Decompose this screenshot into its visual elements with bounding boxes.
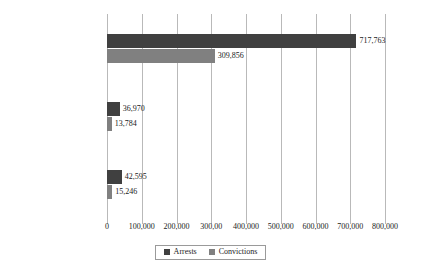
bar-row: 42,595 bbox=[107, 170, 147, 184]
bar-row: 36,970 bbox=[107, 102, 145, 116]
x-axis-tick-label: 300,00 bbox=[200, 222, 222, 231]
bar-convictions[interactable] bbox=[107, 117, 112, 131]
plot-area: 717,763309,85636,97013,78442,59515,246 bbox=[107, 14, 385, 219]
x-axis-tick-label: 700,000 bbox=[337, 222, 363, 231]
bar-row: 13,784 bbox=[107, 117, 137, 131]
legend-item-arrests[interactable]: Arrests bbox=[164, 248, 197, 256]
bar-arrests[interactable] bbox=[107, 170, 122, 184]
x-axis-tick-label: 500,000 bbox=[268, 222, 294, 231]
bar-value-label: 36,970 bbox=[123, 105, 145, 113]
bar-value-label: 42,595 bbox=[125, 173, 147, 181]
legend-box: ArrestsConvictions bbox=[155, 245, 267, 260]
legend-label: Arrests bbox=[174, 248, 197, 256]
x-axis-tick-label: 100,000 bbox=[129, 222, 155, 231]
bar-arrests[interactable] bbox=[107, 34, 356, 48]
bar-convictions[interactable] bbox=[107, 49, 215, 63]
bar-chart: 717,763309,85636,97013,78442,59515,246 N… bbox=[0, 0, 421, 275]
value-axis: 0100,000200,000300,00400,000500,000600,0… bbox=[0, 219, 421, 235]
x-axis-tick-label: 400,000 bbox=[233, 222, 259, 231]
legend-swatch-icon bbox=[164, 249, 170, 255]
bar-row: 15,246 bbox=[107, 185, 137, 199]
legend-item-convictions[interactable]: Convictions bbox=[209, 248, 258, 256]
legend: ArrestsConvictions bbox=[0, 245, 421, 260]
bar-value-label: 13,784 bbox=[115, 120, 137, 128]
bar-row: 717,763 bbox=[107, 34, 385, 48]
bar-row: 309,856 bbox=[107, 49, 244, 63]
x-axis-tick-label: 600,000 bbox=[303, 222, 329, 231]
bar-value-label: 717,763 bbox=[359, 37, 385, 45]
bar-value-label: 15,246 bbox=[115, 188, 137, 196]
bar-convictions[interactable] bbox=[107, 185, 112, 199]
bar-value-label: 309,856 bbox=[218, 52, 244, 60]
x-axis-tick-label: 0 bbox=[105, 222, 109, 231]
legend-swatch-icon bbox=[209, 249, 215, 255]
x-axis-tick-label: 200,000 bbox=[164, 222, 190, 231]
bar-arrests[interactable] bbox=[107, 102, 120, 116]
legend-label: Convictions bbox=[219, 248, 258, 256]
x-axis-tick-label: 800,000 bbox=[372, 222, 398, 231]
